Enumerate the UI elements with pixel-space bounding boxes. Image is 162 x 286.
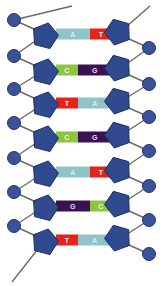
phosphate-circle-left <box>8 50 21 63</box>
sugar-pentagon-right <box>105 88 130 114</box>
base-block-a <box>56 29 90 40</box>
phosphate-circle-left <box>8 117 21 130</box>
base-block-c <box>56 65 78 76</box>
dna-svg-canvas: ATCGTACGATGCTA <box>0 0 162 286</box>
dna-double-helix-diagram: ATCGTACGATGCTA <box>0 0 162 286</box>
sugar-pentagon-right <box>105 122 130 148</box>
sugar-pentagon-left <box>34 59 59 85</box>
base-block-c <box>56 132 78 143</box>
phosphate-circle-right <box>143 180 156 193</box>
phosphate-circle-right <box>143 78 156 91</box>
base-pair-rungs <box>56 29 112 246</box>
phosphate-circle-left <box>8 14 21 27</box>
phosphate-circle-right <box>143 42 156 55</box>
phosphate-circle-left <box>8 83 21 96</box>
sugar-pentagon-right <box>105 225 130 251</box>
phosphate-circle-right <box>143 248 156 261</box>
phosphate-circle-left <box>8 220 21 233</box>
sugar-pentagon-right <box>105 55 130 81</box>
base-block-g <box>56 201 90 212</box>
phosphate-circle-right <box>143 214 156 227</box>
sugar-pentagon-left <box>34 92 59 118</box>
base-block-a <box>56 167 90 178</box>
backbone-end-left-top <box>14 6 72 20</box>
sugar-pentagon-left <box>34 23 59 49</box>
sugar-pentagon-right <box>105 19 130 45</box>
sugar-pentagon-right <box>105 191 130 217</box>
sugar-pentagon-left <box>34 195 59 221</box>
sugar-pentagon-left <box>34 229 59 255</box>
sugar-pentagon-left <box>34 161 59 187</box>
phosphate-circle-right <box>143 145 156 158</box>
sugar-pentagon-right <box>105 157 130 183</box>
sugar-pentagon-left <box>34 126 59 152</box>
base-block-t <box>56 235 78 246</box>
base-block-t <box>56 98 78 109</box>
phosphate-circle-left <box>8 186 21 199</box>
phosphate-circle-right <box>143 111 156 124</box>
phosphate-circle-left <box>8 152 21 165</box>
